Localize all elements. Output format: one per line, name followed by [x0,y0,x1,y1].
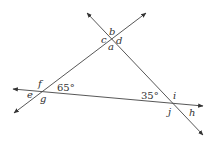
angle-measure-65: 65° [57,82,75,93]
angle-label-h: h [189,107,195,118]
angle-label-j: j [166,106,171,117]
angle-label-g: g [40,93,46,104]
line-top-right [87,13,203,135]
angle-label-d: d [116,35,122,46]
angle-label-a: a [108,41,114,52]
angle-measure-35: 35° [141,90,159,101]
triangle-diagram: b c d a f e g 65° 35° i j h [0,0,212,141]
angle-label-c: c [101,34,107,45]
angle-label-i: i [173,90,176,101]
angle-label-e: e [27,89,33,100]
line-left-top [14,13,146,113]
angle-label-f: f [37,78,44,89]
angle-label-b: b [109,26,115,37]
